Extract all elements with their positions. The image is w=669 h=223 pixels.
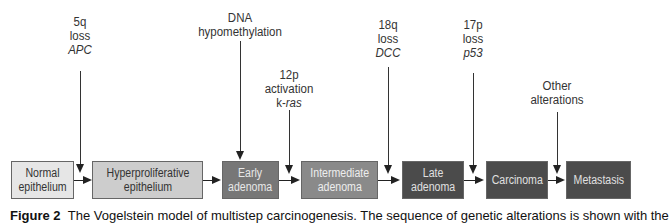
stage-late-adenoma: Lateadenoma <box>402 161 464 199</box>
stage-label-line1: Intermediate <box>310 166 369 180</box>
chromosome-text: 18q <box>371 18 404 32</box>
event-text: loss <box>371 32 404 46</box>
gene-prefix-text: k- <box>276 96 286 110</box>
stage-label-line1: Early <box>228 166 272 180</box>
arrow-right-icon <box>475 176 484 184</box>
stage-label-line1: Normal <box>18 166 66 180</box>
alteration-apc-label: 5q loss APC <box>63 15 96 57</box>
stage-label-line2: adenoma <box>228 180 272 194</box>
stage-early-adenoma: Earlyadenoma <box>222 161 279 199</box>
arrow-apc-line <box>80 71 81 166</box>
stage-metastasis: Metastasis <box>566 161 631 199</box>
event-text: loss <box>63 29 96 43</box>
stage-label-line1: Carcinoma <box>491 173 542 187</box>
gene-text: ras <box>286 96 302 110</box>
chromosome-text: 5q <box>63 15 96 29</box>
arrow-other-line <box>557 112 558 167</box>
caption-text: The Vogelstein model of multistep carcin… <box>68 208 669 223</box>
stage-intermediate-adenoma: Intermediateadenoma <box>301 161 378 199</box>
event-text: activation <box>262 82 315 96</box>
gene-text: APC <box>68 43 92 57</box>
stage-label-line2: epithelium <box>18 180 66 194</box>
stage-label-line1: Late <box>411 166 455 180</box>
figure-caption: Figure 2 The Vogelstein model of multist… <box>10 208 669 223</box>
alteration-other-label: Other alterations <box>525 79 589 107</box>
arrow-right-icon <box>83 176 92 184</box>
chromosome-text: 17p <box>456 18 489 32</box>
stage-carcinoma: Carcinoma <box>486 161 548 199</box>
stage-normal-epithelium: Normalepithelium <box>11 161 74 199</box>
arrow-right-icon <box>556 176 565 184</box>
alteration-dcc-label: 18q loss DCC <box>371 18 404 60</box>
arrow-dcc-line <box>388 67 389 167</box>
stage-label-line1: Metastasis <box>573 173 624 187</box>
stage-label-line2: adenoma <box>411 180 455 194</box>
stage-hyperproliferative-epithelium: Hyperproliferativeepithelium <box>92 161 203 199</box>
caption-label: Figure 2 <box>10 208 61 223</box>
gene-text: p53 <box>463 46 482 60</box>
alteration-kras-label: 12p activation k-ras <box>262 68 315 110</box>
arrow-right-icon <box>212 176 221 184</box>
event-text: hypomethylation <box>198 25 283 39</box>
stage-label-line2: adenoma <box>310 180 369 194</box>
arrow-right-icon <box>291 176 300 184</box>
arrow-right-icon <box>391 176 400 184</box>
stage-label-line1: Hyperproliferative <box>106 166 189 180</box>
arrow-kras-line <box>289 110 290 167</box>
gene-text: DCC <box>376 46 401 60</box>
arrow-down-icon <box>469 165 477 174</box>
arrow-down-icon <box>76 164 84 173</box>
arrow-dna-hypomethylation-line <box>240 41 241 153</box>
chromosome-text: Other <box>525 79 589 93</box>
alteration-p53-label: 17p loss p53 <box>456 18 489 60</box>
arrow-down-icon <box>236 151 244 160</box>
chromosome-text: 12p <box>262 68 315 82</box>
event-text: loss <box>456 32 489 46</box>
event-text: alterations <box>525 93 589 107</box>
stage-label-line2: epithelium <box>106 180 189 194</box>
alteration-dna-hypomethylation-label: DNA hypomethylation <box>198 11 283 39</box>
arrow-down-icon <box>553 165 561 174</box>
arrow-p53-line <box>473 73 474 167</box>
chromosome-text: DNA <box>198 11 283 25</box>
arrow-down-icon <box>285 165 293 174</box>
arrow-down-icon <box>384 165 392 174</box>
